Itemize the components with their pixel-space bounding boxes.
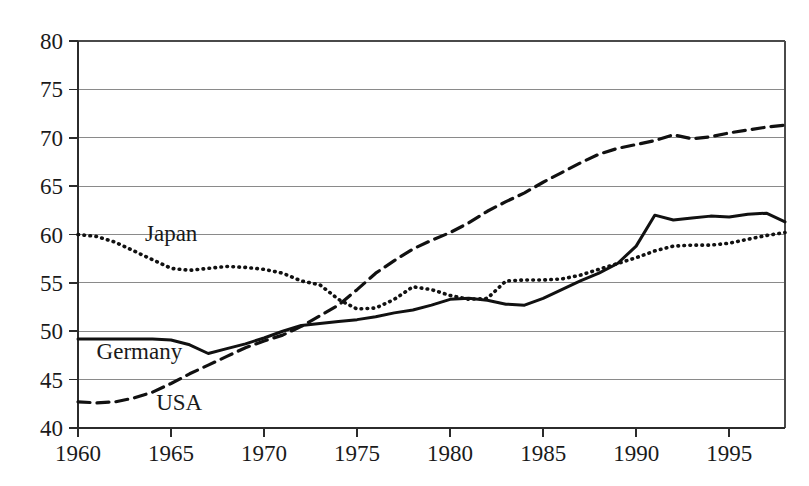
series-label-japan: Japan: [145, 221, 198, 246]
series-line-usa: [78, 125, 785, 403]
x-tick-label: 1965: [148, 441, 194, 466]
y-tick-label: 80: [40, 29, 63, 54]
x-tick-label: 1960: [55, 441, 101, 466]
y-tick-label: 75: [40, 77, 63, 102]
y-tick-label: 50: [40, 319, 63, 344]
x-tick-label: 1990: [613, 441, 659, 466]
x-tick-label: 1975: [334, 441, 380, 466]
series-label-usa: USA: [156, 390, 202, 415]
x-tick-label: 1980: [427, 441, 473, 466]
x-tick-label: 1995: [706, 441, 752, 466]
line-chart: 4045505560657075801960196519701975198019…: [0, 0, 809, 486]
y-tick-label: 40: [40, 416, 63, 441]
x-tick-label: 1985: [520, 441, 566, 466]
chart-page: 4045505560657075801960196519701975198019…: [0, 0, 809, 486]
y-tick-label: 70: [40, 126, 63, 151]
x-tick-label: 1970: [241, 441, 287, 466]
y-tick-label: 55: [40, 271, 63, 296]
y-tick-label: 45: [40, 368, 63, 393]
y-tick-label: 65: [40, 174, 63, 199]
y-tick-label: 60: [40, 223, 63, 248]
series-label-germany: Germany: [97, 339, 183, 364]
